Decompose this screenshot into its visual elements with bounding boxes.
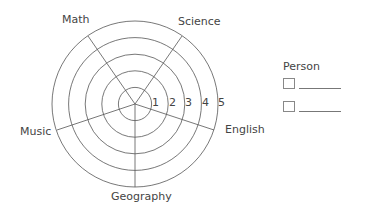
legend-entry-1 xyxy=(283,78,341,89)
legend-entry-2 xyxy=(283,101,341,112)
scale-label-4: 4 xyxy=(202,97,209,108)
axis-label-geography: Geography xyxy=(111,191,172,202)
legend-swatch-1[interactable] xyxy=(283,78,295,89)
legend-title: Person xyxy=(283,60,320,73)
legend-swatch-2[interactable] xyxy=(283,101,295,112)
scale-label-1: 1 xyxy=(152,97,159,108)
legend-name-field-1[interactable] xyxy=(299,78,341,89)
axis-label-science: Science xyxy=(178,16,221,27)
scale-label-2: 2 xyxy=(169,97,176,108)
axis-label-math: Math xyxy=(62,14,90,25)
scale-label-3: 3 xyxy=(185,97,192,108)
axis-label-english: English xyxy=(225,124,265,135)
spoke-science xyxy=(135,36,182,104)
axis-label-music: Music xyxy=(20,126,51,137)
scale-label-5: 5 xyxy=(218,97,225,108)
legend-name-field-2[interactable] xyxy=(299,101,341,112)
spoke-math xyxy=(88,36,135,104)
